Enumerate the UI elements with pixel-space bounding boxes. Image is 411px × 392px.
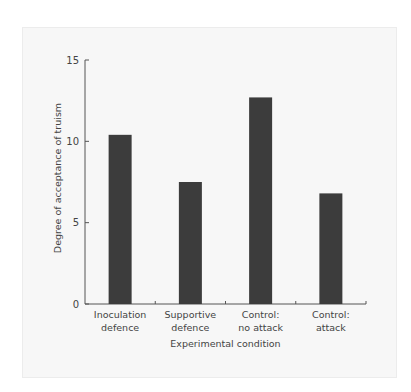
x-axis-title: Experimental condition (170, 338, 280, 349)
y-axis-title: Degree of acceptance of truism (52, 103, 63, 253)
y-tick-label: 0 (73, 299, 79, 310)
x-category-label: attack (316, 322, 346, 333)
bar-supportive-defence (179, 182, 202, 304)
chart-canvas: 051015InoculationdefenceSupportivedefenc… (0, 0, 411, 392)
x-category-label: defence (171, 322, 209, 333)
x-category-label: Control: (312, 309, 350, 320)
y-tick-label: 15 (66, 55, 79, 66)
x-category-label: Supportive (165, 309, 217, 320)
bar-inoculation-defence (109, 135, 132, 304)
x-category-label: no attack (238, 322, 283, 333)
bar-control-attack (319, 193, 342, 304)
x-category-label: Inoculation (94, 309, 147, 320)
y-tick-label: 5 (73, 217, 79, 228)
y-tick-label: 10 (66, 136, 79, 147)
x-category-label: defence (101, 322, 139, 333)
bar-chart: 051015InoculationdefenceSupportivedefenc… (0, 0, 411, 392)
x-category-label: Control: (242, 309, 280, 320)
bar-control-no-attack (249, 97, 272, 304)
